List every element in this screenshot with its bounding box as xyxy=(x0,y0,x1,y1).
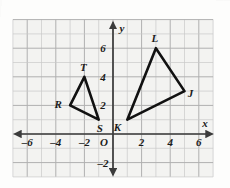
origin-label: O xyxy=(100,136,108,148)
x-axis-tick-label: –2 xyxy=(78,136,91,148)
y-axis-tick-label: 6 xyxy=(100,42,106,54)
coordinate-plane-figure: –6–4–2246642–2OxyTRSLJK xyxy=(0,0,230,188)
x-axis-tick-label: 4 xyxy=(166,136,173,148)
y-axis-tick-label: 4 xyxy=(99,71,106,83)
x-axis-label: x xyxy=(201,117,208,129)
y-axis-tick-label: 2 xyxy=(99,99,106,111)
coordinate-plane-svg: –6–4–2246642–2OxyTRSLJK xyxy=(0,0,230,188)
x-axis-tick-label: 2 xyxy=(138,136,145,148)
vertex-label-s: S xyxy=(97,122,103,134)
vertex-label-k: K xyxy=(113,121,122,133)
vertex-label-j: J xyxy=(187,87,194,99)
x-axis-tick-label: 6 xyxy=(196,136,202,148)
vertex-label-r: R xyxy=(53,98,61,110)
x-axis-tick-label: –4 xyxy=(49,136,62,148)
x-axis-tick-label: –6 xyxy=(21,136,34,148)
y-axis-tick-label: –2 xyxy=(97,157,110,169)
y-axis-label: y xyxy=(118,22,125,34)
cropped-header-text xyxy=(0,0,230,11)
vertex-label-l: L xyxy=(151,32,159,44)
